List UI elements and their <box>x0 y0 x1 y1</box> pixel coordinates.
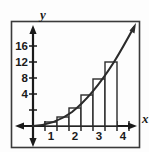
x-tick-label: 4 <box>120 130 127 142</box>
bar <box>93 79 105 126</box>
x-tick-label: 1 <box>48 130 55 142</box>
x-tick-label: 2 <box>72 130 78 142</box>
riemann-sum-plot: 16 12 8 4 1 2 3 4 y x <box>0 0 149 152</box>
bar <box>81 95 93 126</box>
x-axis-label: x <box>141 111 149 126</box>
riemann-sum-figure: 16 12 8 4 1 2 3 4 y x <box>0 0 149 152</box>
y-tick-label: 8 <box>22 72 29 84</box>
figure-border <box>12 22 140 148</box>
x-tick-label: 3 <box>96 130 102 142</box>
y-tick-label: 12 <box>15 56 28 68</box>
y-tick-label: 16 <box>15 40 28 52</box>
y-tick-label: 4 <box>22 88 29 100</box>
y-axis-label: y <box>38 7 46 22</box>
